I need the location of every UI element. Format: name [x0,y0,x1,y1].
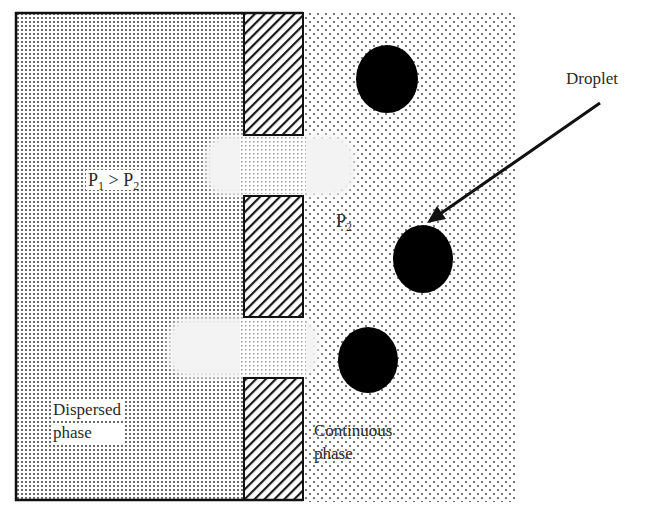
continuous-phase-label-line1: Continuous [314,421,392,441]
p2-symbol: P [123,170,133,190]
droplet-3 [338,327,398,393]
p2-subscript: 2 [133,179,139,193]
p2-symbol: P [336,211,346,231]
pore-2 [168,317,318,378]
greater-than-operator: > [104,170,123,190]
dispersed-phase-label: Dispersed phase [51,400,123,443]
continuous-pressure-label: P2 [336,211,352,231]
continuous-phase-label: Continuous phase [314,421,392,464]
droplet-1 [356,45,418,113]
p2-subscript: 2 [346,220,352,234]
dispersed-phase-label-line1: Dispersed [51,400,123,420]
continuous-phase-label-line2: phase [314,444,392,464]
droplet-2 [393,225,453,293]
pressure-relation-label: P1 > P2 [86,170,141,190]
droplet-label: Droplet [566,69,618,89]
p1-symbol: P [88,170,98,190]
membrane-block-3 [244,378,303,500]
membrane-block-2 [244,196,303,317]
pore-1 [205,135,355,196]
membrane-block-1 [244,13,303,135]
dispersed-phase-label-line2: phase [51,423,123,443]
